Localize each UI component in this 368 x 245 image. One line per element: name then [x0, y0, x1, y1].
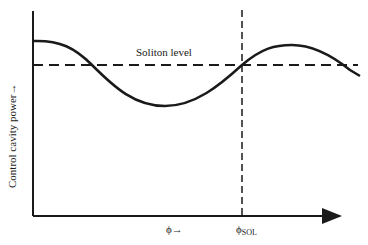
- diagram-canvas: [0, 0, 368, 245]
- y-axis-label: Control cavity power→: [6, 84, 18, 188]
- phi-sol-label: ϕSOL: [236, 223, 257, 237]
- power-curve: [33, 41, 360, 106]
- phi-sol-subscript: SOL: [242, 228, 257, 237]
- x-axis-label: ϕ→: [166, 223, 183, 235]
- soliton-level-label: Soliton level: [136, 46, 192, 58]
